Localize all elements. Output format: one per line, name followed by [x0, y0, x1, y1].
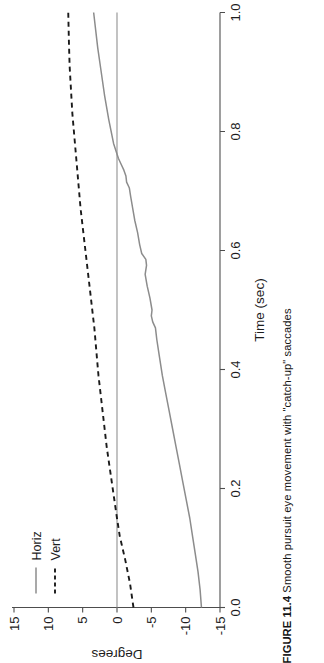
y-tick-label: -15 [213, 616, 228, 635]
x-tick-label: 0.6 [228, 241, 243, 259]
x-tick-label: 0.4 [228, 360, 243, 378]
legend-label-horiz: Horiz [30, 531, 44, 560]
x-axis-title: Time (sec) [252, 278, 267, 341]
chart-plot-area: 151050-5-10-150.00.20.40.60.81.0Time (se… [0, 0, 276, 663]
y-tick-label: -5 [144, 616, 159, 628]
x-tick-label: 0.2 [228, 479, 243, 497]
y-tick-label: 5 [75, 616, 90, 623]
y-tick-label: 0 [110, 616, 125, 623]
rotated-figure-container: 151050-5-10-150.00.20.40.60.81.0Time (se… [0, 0, 324, 663]
y-axis-title-group: Degrees [91, 646, 142, 661]
y-axis-title: Degrees [91, 646, 142, 661]
y-tick-label: 15 [7, 616, 22, 630]
series-line-horiz [94, 12, 202, 607]
figure-caption-text: Smooth pursuit eye movement with "catch-… [281, 308, 293, 592]
x-tick-label: 0.0 [228, 598, 243, 616]
line-chart: 151050-5-10-150.00.20.40.60.81.0Time (se… [0, 0, 276, 663]
figure-caption: FIGURE 11.4 Smooth pursuit eye movement … [280, 0, 320, 663]
figure-number: FIGURE 11.4 [281, 595, 293, 663]
x-tick-label: 1.0 [228, 3, 243, 21]
x-tick-label: 0.8 [228, 122, 243, 140]
series-line-vert [68, 12, 133, 607]
figure-page: 151050-5-10-150.00.20.40.60.81.0Time (se… [0, 0, 324, 663]
y-tick-label: -10 [178, 616, 193, 635]
legend-label-vert: Vert [49, 537, 63, 560]
y-tick-label: 10 [41, 616, 56, 630]
